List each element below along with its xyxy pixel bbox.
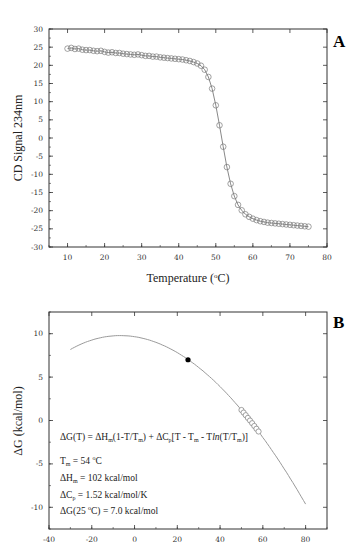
y-axis-title-a: CD Signal 234nm — [11, 94, 25, 181]
panel-a-cd-melt-chart: 1020304050607080302520151050-5-10-15-20-… — [11, 25, 346, 286]
x-tick-label: 30 — [137, 253, 147, 262]
annotation-tm: Tm = 54 oC — [60, 455, 102, 467]
panel-label-b: B — [333, 313, 344, 332]
x-tick-label: -40 — [43, 535, 55, 544]
figure: 1020304050607080302520151050-5-10-15-20-… — [0, 0, 357, 544]
y-tick-label: 0 — [38, 416, 43, 425]
y-tick-label: -10 — [31, 170, 43, 179]
y-tick-label: -15 — [31, 188, 43, 197]
x-tick-label: 0 — [132, 535, 137, 544]
y-tick-label: 15 — [33, 79, 43, 88]
fit-line — [68, 48, 309, 227]
y-tick-label: 5 — [38, 115, 43, 124]
x-tick-label: 20 — [100, 253, 110, 262]
annotation-dhm: ΔHm = 102 kcal/mol — [60, 473, 138, 484]
fit-line-a — [68, 48, 309, 227]
annotation-dcp: ΔCp = 1.52 kcal/mol/K — [60, 490, 147, 501]
panel-b-stability-curve-chart: -40-200204060801050-5-10 B ΔG (kcal/mol)… — [11, 312, 344, 544]
y-tick-label: 0 — [38, 134, 43, 143]
x-axis-title-a: Temperature (oC) — [147, 271, 230, 285]
y-tick-label: -25 — [31, 224, 43, 233]
x-tick-label: 70 — [285, 253, 295, 262]
x-tick-label: 80 — [322, 253, 332, 262]
y-tick-label: 10 — [33, 329, 43, 338]
x-tick-label: 60 — [258, 535, 268, 544]
annotation-dg25: ΔG(25 oC) = 7.0 kcal/mol — [60, 505, 158, 517]
x-tick-label: 50 — [211, 253, 221, 262]
plot-frame-a — [49, 29, 327, 247]
data-points-a — [65, 45, 312, 229]
panel-label-a: A — [333, 32, 346, 51]
x-tick-label: 20 — [173, 535, 183, 544]
equation-dg: ΔG(T) = ΔHm(1-T/Tm) + ΔCp[T - Tm - Tln(T… — [60, 432, 248, 443]
x-tick-label: 40 — [174, 253, 184, 262]
x-tick-label: -20 — [86, 535, 98, 544]
y-tick-label: 30 — [33, 25, 43, 34]
y-tick-label: -10 — [31, 503, 43, 512]
y-tick-label: -20 — [31, 206, 43, 215]
x-tick-label: 80 — [301, 535, 311, 544]
y-tick-label: 5 — [38, 373, 43, 382]
data-points-b — [185, 357, 261, 434]
experimental-point — [256, 429, 261, 434]
y-tick-label: -5 — [36, 459, 44, 468]
y-tick-label: -5 — [36, 152, 44, 161]
y-tick-label: 25 — [33, 43, 43, 52]
y-tick-label: 20 — [33, 61, 43, 70]
y-tick-label: 10 — [33, 97, 43, 106]
y-axis-title-b: ΔG (kcal/mol) — [11, 386, 25, 455]
dg-25c-point — [185, 357, 190, 362]
x-tick-label: 60 — [248, 253, 258, 262]
x-tick-label: 40 — [215, 535, 225, 544]
x-tick-label: 10 — [63, 253, 73, 262]
y-tick-label: -30 — [31, 243, 43, 252]
